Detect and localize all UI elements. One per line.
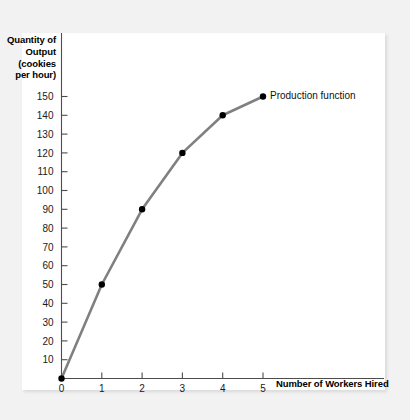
x-tick-label: 0 — [59, 383, 65, 394]
plot-area: 102030405060708090100110120130140150 012… — [0, 0, 410, 420]
y-axis-ticks: 102030405060708090100110120130140150 — [37, 91, 68, 365]
chart-figure: Quantity of Output (cookies per hour) 10… — [0, 0, 410, 420]
production-function-points — [58, 93, 266, 381]
x-tick-label: 2 — [139, 383, 145, 394]
y-tick-label: 140 — [37, 110, 54, 121]
x-tick-label: 1 — [99, 383, 105, 394]
y-tick-label: 150 — [37, 91, 54, 102]
production-function-line — [62, 97, 264, 379]
y-tick-label: 70 — [42, 242, 54, 253]
y-tick-label: 110 — [38, 166, 54, 177]
y-tick-label: 50 — [42, 279, 54, 290]
x-tick-label: 5 — [260, 383, 266, 394]
data-point — [99, 281, 105, 287]
y-tick-label: 90 — [42, 204, 54, 215]
y-tick-label: 130 — [37, 129, 54, 140]
production-function-annotation: Production function — [270, 90, 356, 101]
y-tick-label: 120 — [37, 148, 54, 159]
y-tick-label: 60 — [42, 260, 54, 271]
x-tick-label: 4 — [220, 383, 226, 394]
data-point — [139, 206, 145, 212]
y-tick-label: 80 — [42, 223, 54, 234]
y-tick-label: 100 — [37, 185, 54, 196]
data-point — [260, 93, 266, 99]
data-point — [220, 112, 226, 118]
x-axis-ticks: 012345 — [59, 373, 267, 394]
y-tick-label: 20 — [42, 336, 54, 347]
y-tick-label: 10 — [42, 354, 54, 365]
y-tick-label: 40 — [42, 298, 54, 309]
data-point — [58, 375, 64, 381]
x-tick-label: 3 — [180, 383, 186, 394]
x-axis-title: Number of Workers Hired — [276, 378, 389, 389]
data-point — [179, 150, 185, 156]
y-tick-label: 30 — [42, 317, 54, 328]
